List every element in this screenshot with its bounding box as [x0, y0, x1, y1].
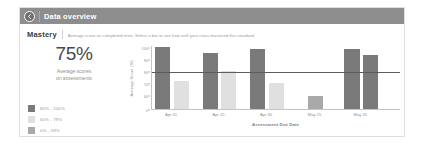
average-score-caption: Average scores on assessments	[26, 68, 122, 83]
legend-label: 0% - 59%	[40, 128, 60, 133]
y-axis-title: Average Score (%)	[126, 46, 136, 110]
legend-item[interactable]: 80% - 100%	[28, 103, 128, 114]
chart-bar[interactable]	[250, 49, 265, 109]
y-tick-mark	[148, 72, 150, 73]
chart-bar[interactable]	[155, 47, 170, 109]
x-tick-label: May 31	[354, 112, 367, 117]
y-axis-title-text: Average Score (%)	[129, 60, 134, 96]
y-tick-mark	[148, 60, 150, 61]
legend-label: 60% - 79%	[40, 117, 62, 122]
mastery-header: Mastery Average score on completed tests…	[27, 30, 396, 39]
x-axis-title: Assessment Due Date	[151, 122, 400, 127]
header-divider	[39, 11, 40, 22]
average-score-value: 75%	[26, 44, 122, 63]
legend-item[interactable]: 60% - 79%	[28, 114, 128, 125]
x-tick-label: May 15	[308, 112, 321, 117]
plot-area	[151, 46, 400, 110]
x-tick-label: Apr 15	[213, 112, 225, 117]
y-axis-ticks: 100908070600	[137, 46, 150, 110]
chart-bar[interactable]	[174, 81, 189, 109]
back-arrow-icon[interactable]	[24, 11, 35, 22]
chart-bar[interactable]	[269, 83, 284, 109]
legend-swatch	[28, 105, 35, 112]
mastery-bar-chart: Average Score (%) 100908070600 Apr 01Apr…	[128, 46, 400, 132]
y-tick-mark	[148, 48, 150, 49]
chart-bar[interactable]	[363, 55, 378, 109]
chart-bar[interactable]	[221, 71, 236, 109]
x-axis-ticks: Apr 01Apr 15Apr 30May 15May 31	[151, 112, 400, 120]
chart-bar[interactable]	[344, 49, 359, 109]
legend-label: 80% - 100%	[40, 106, 65, 111]
y-tick-mark	[148, 96, 150, 97]
legend-item[interactable]: 0% - 59%	[28, 125, 128, 136]
y-tick-mark	[148, 84, 150, 85]
data-overview-card: Data overview Mastery Average score on c…	[19, 7, 405, 137]
screen: Data overview Mastery Average score on c…	[0, 0, 424, 148]
chart-bar[interactable]	[203, 53, 218, 109]
section-title: Mastery	[27, 30, 57, 39]
y-tick-mark	[148, 110, 150, 111]
chart-bar[interactable]	[308, 96, 323, 109]
plot-wrapper: 100908070600	[137, 46, 400, 110]
caption-line-1: Average scores	[26, 68, 122, 75]
title-divider	[62, 30, 63, 39]
average-score-summary: 75% Average scores on assessments	[26, 44, 122, 83]
legend-swatch	[28, 116, 35, 123]
section-description: Average score on completed tests. Select…	[68, 33, 255, 38]
x-tick-label: Apr 01	[165, 112, 177, 117]
threshold-line	[152, 72, 400, 73]
caption-line-2: on assessments	[26, 75, 122, 82]
x-tick-label: Apr 30	[260, 112, 272, 117]
bar-series	[152, 46, 400, 109]
score-band-legend: 80% - 100%60% - 79%0% - 59%	[28, 103, 128, 136]
page-title: Data overview	[44, 12, 96, 21]
legend-swatch	[28, 127, 35, 134]
card-header: Data overview	[20, 8, 404, 24]
